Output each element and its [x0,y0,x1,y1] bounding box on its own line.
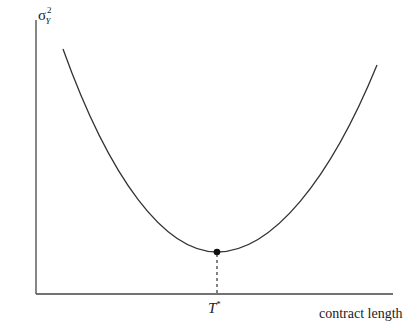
minimum-point [214,249,221,256]
t-star-label: T* [208,299,221,317]
x-axis-label: contract length [319,306,403,322]
variance-curve [63,49,377,252]
chart-canvas [0,0,417,330]
y-axis-label: σ2Y [38,6,56,26]
